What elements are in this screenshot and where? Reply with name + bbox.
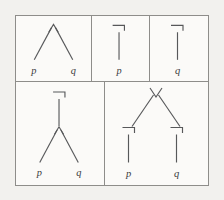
tree-diagram-negation-q: q <box>150 16 208 81</box>
tree-cell-disjunction-of-negations: p q <box>105 82 208 185</box>
negation-operator-icon <box>171 25 183 30</box>
tree-edge-left <box>34 28 51 60</box>
tree-edge-right <box>55 28 72 60</box>
tree-edge-right <box>61 130 78 163</box>
disjunction-operator-icon <box>150 88 162 97</box>
tree-diagram-disjunction-of-negations: p q <box>105 82 208 185</box>
tree-cell-negated-conjunction: p q <box>16 82 105 185</box>
formula-list: p ∧ q ¬ p ¬ q ¬ ( p ∧ q ) ¬ p ∨ ¬ q <box>0 0 1 1</box>
tree-edge-left <box>132 95 154 127</box>
negation-operator-icon <box>53 92 65 98</box>
logic-parse-tree-figure: p q p q <box>0 0 224 200</box>
leaf-label-left: p <box>30 65 36 76</box>
tree-grid: p q p q <box>15 15 209 186</box>
tree-diagram-negated-conjunction: p q <box>16 82 104 185</box>
tree-cell-negation-p: p <box>92 16 150 81</box>
leaf-label-left: q <box>175 65 180 76</box>
leaf-label-left: p <box>115 65 121 76</box>
tree-edge-left <box>40 130 57 163</box>
negation-operator-icon <box>113 25 125 30</box>
tree-edge-right <box>159 95 181 127</box>
negation-operator-icon-left <box>123 128 135 134</box>
leaf-label-right: q <box>174 168 179 179</box>
tree-grid-row-bottom: p q <box>16 82 208 185</box>
negation-operator-icon-right <box>171 128 183 134</box>
tree-diagram-negation-p: p <box>92 16 149 81</box>
tree-cell-negation-q: q <box>150 16 208 81</box>
tree-grid-row-top: p q p q <box>16 16 208 82</box>
leaf-label-left: p <box>36 167 42 178</box>
tree-cell-conjunction: p q <box>16 16 92 81</box>
leaf-label-right: q <box>71 65 76 76</box>
leaf-label-left: p <box>125 168 131 179</box>
leaf-label-right: q <box>76 167 81 178</box>
tree-diagram-conjunction: p q <box>16 16 91 81</box>
